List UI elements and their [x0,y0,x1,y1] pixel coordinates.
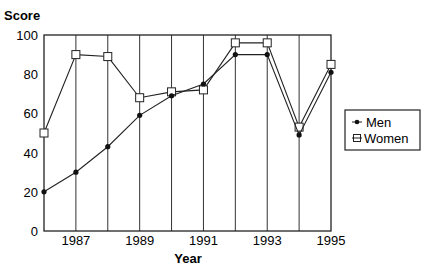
data-point-marker [265,52,270,57]
data-point-marker [72,51,80,59]
data-point-marker [231,39,239,47]
data-point-marker [41,189,46,194]
data-point-marker [297,132,302,137]
series-women [40,39,335,137]
data-point-marker [104,53,112,61]
data-point-marker [328,70,333,75]
data-point-marker [199,86,207,94]
x-axis-title: Year [174,251,201,266]
series-line [44,43,331,133]
y-tick-label: 20 [24,185,38,200]
data-point-marker [263,39,271,47]
x-axis-ticks: 19871989199119931995 [61,233,345,248]
data-point-marker [105,144,110,149]
data-point-marker [136,94,144,102]
plot-frame [44,35,331,231]
y-tick-label: 40 [24,146,38,161]
legend-label-men: Men [366,115,391,130]
x-tick-label: 1989 [125,233,154,248]
data-point-marker [327,60,335,68]
x-tick-label: 1987 [61,233,90,248]
data-point-marker [137,113,142,118]
data-point-marker [73,170,78,175]
data-point-marker [40,129,48,137]
y-tick-label: 0 [31,224,38,239]
x-tick-label: 1993 [253,233,282,248]
x-tick-label: 1995 [317,233,346,248]
legend: Men Women [345,110,420,150]
grid-lines [76,35,299,231]
legend-label-women: Women [364,131,409,146]
y-axis-title: Score [4,8,40,23]
y-axis-ticks: 020406080100 [16,28,38,239]
filled-circle-marker-icon [355,120,360,125]
data-point-marker [201,81,206,86]
series-men [41,52,333,194]
y-tick-label: 100 [16,28,38,43]
data-point-marker [169,93,174,98]
x-tick-label: 1991 [189,233,218,248]
y-tick-label: 60 [24,106,38,121]
y-tick-label: 80 [24,67,38,82]
series-line [44,55,331,192]
data-point-marker [233,52,238,57]
line-chart: Score 020406080100 19871989199119931995 … [0,0,433,279]
